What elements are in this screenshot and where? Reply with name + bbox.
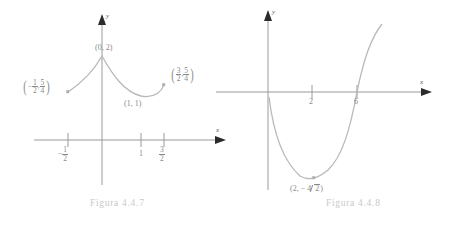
paren-close: ) [190,66,193,83]
curve-function [269,24,382,179]
figure-caption-4-4-7: Figura 4.4.7 [90,198,145,208]
y-axis-label: y [272,8,275,16]
fraction-y-left: 54 [40,79,46,95]
paren-open: ( [23,78,26,95]
radicand: 2 [314,184,320,193]
curve-left-branch [68,56,102,92]
x-tick-label-six: 6 [354,98,358,106]
fraction-y-right: 54 [183,67,189,83]
label-cusp-maximum: (0, 2) [95,44,112,52]
x-tick-label-three-halves: 32 [159,146,165,162]
paren-open: ( [171,66,174,83]
point-marker-right-endpoint [162,83,165,86]
x-tick-label-two: 2 [309,98,313,106]
x-axis-arrow [421,88,432,96]
curve-right-branch [102,56,164,97]
figure-4-4-7: y x (0, 2) (1, 1) (−12,54) (32,54) −12 1… [0,0,238,227]
figure-caption-4-4-8: Figura 4.4.8 [326,198,381,208]
label-minimum-prefix: (2, − 4 [290,184,311,193]
x-tick-label-one: 1 [139,150,143,158]
figure-4-4-8: y x 2 6 (2, − 42) Figura 4.4.8 [216,0,454,227]
label-left-endpoint: (−12,54) [22,78,51,95]
point-marker-minimum [312,176,315,179]
label-minimum-suffix: ) [320,184,323,193]
point-marker-left-endpoint [66,90,69,93]
plot-4-4-8 [216,0,454,200]
y-axis-arrow [264,10,272,21]
y-axis-arrow [98,14,106,25]
plot-4-4-7 [0,0,238,200]
label-right-endpoint: (32,54) [170,66,195,83]
x-axis-label: x [420,78,423,86]
paren-close: ) [46,78,49,95]
radical-sign: 2 [311,184,320,193]
tick-fraction-three-halves: 32 [159,146,165,162]
y-axis-label: y [106,12,109,20]
x-tick-label-neg-half: −12 [58,146,68,162]
label-minimum: (2, − 42) [290,184,323,193]
label-local-minimum: (1, 1) [124,100,141,108]
tick-fraction-half: 12 [62,146,68,162]
